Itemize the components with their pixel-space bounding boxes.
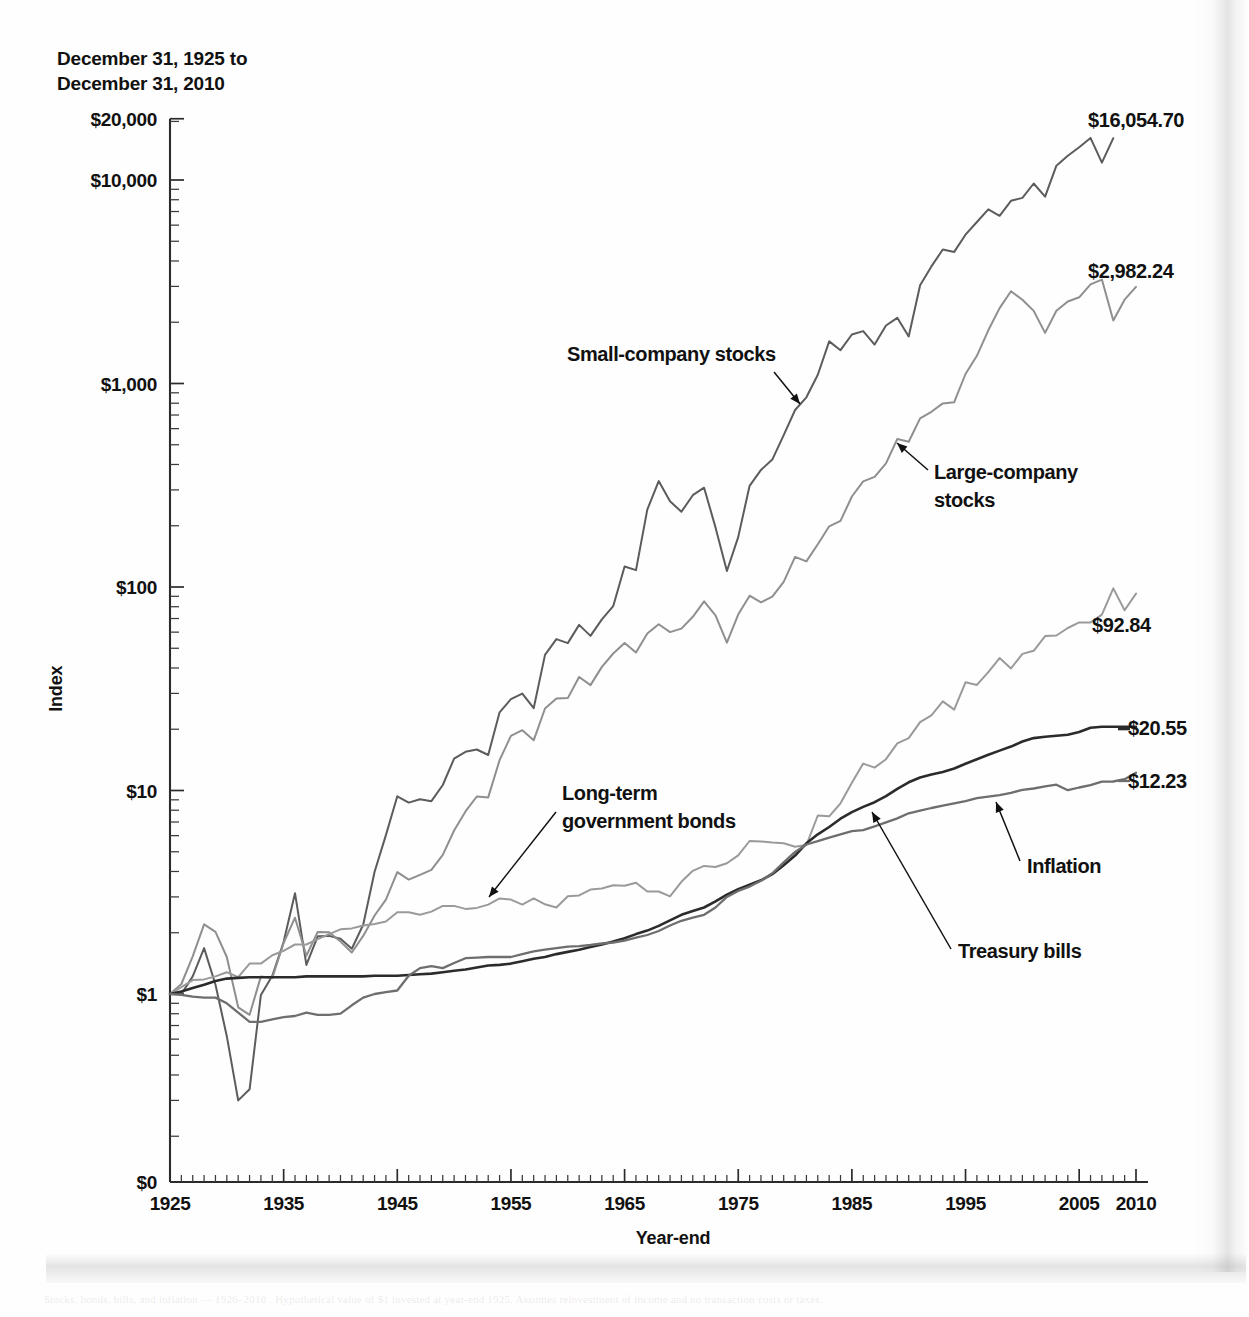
series-annotation-small-cap: Small-company stocks [567,343,776,365]
y-axis-tick-label: $1 [136,984,157,1005]
x-axis-tick-label: 1955 [491,1193,533,1214]
end-value-label-inflation: $12.23 [1128,770,1187,792]
leader-inflation-head [996,802,1004,813]
x-axis-tick-label: 1945 [377,1193,419,1214]
y-axis-tick-label: $20,000 [90,109,157,130]
y-axis-tick-label: $100 [116,577,157,598]
x-axis-tick-label: 2005 [1059,1193,1101,1214]
x-axis-title: Year-end [636,1228,710,1248]
y-axis-tick-label: $1,000 [101,374,157,395]
axes-layer [170,119,1148,1182]
series-annotation-tbills: Treasury bills [958,940,1082,962]
end-value-label-lt_gov_bonds: $92.84 [1092,614,1152,636]
x-axis-tick-label: 1975 [718,1193,760,1214]
end-value-label-large_cap: $2,982.24 [1088,260,1175,282]
series-annotation-lt-gov-bonds: Long-termgovernment bonds [562,782,736,832]
leader-lt-gov-bonds [489,812,556,897]
x-axis-tick-label: 1925 [150,1193,192,1214]
x-axis-tick-label: 1935 [263,1193,305,1214]
x-axis-tick-label: 1965 [604,1193,646,1214]
axis-labels-layer: $20,000$10,000$1,000$100$10$1$0Index1925… [46,109,1156,1248]
y-axis-tick-label: $0 [136,1172,157,1193]
end-value-label-small_cap: $16,054.70 [1088,109,1184,131]
leader-lt-gov-bonds-head [489,886,499,897]
scanned-page: December 31, 1925 to December 31, 2010 $… [0,0,1249,1317]
series-line-large_cap [170,280,1136,1015]
x-axis-tick-label: 1985 [832,1193,874,1214]
x-axis-tick-label: 1995 [945,1193,987,1214]
y-axis-tick-label: $10,000 [90,170,157,191]
y-axis-title: Index [46,666,66,712]
leader-tbills [872,812,951,949]
x-axis-tick-label: 2010 [1116,1193,1157,1214]
series-annotation-inflation: Inflation [1027,855,1101,877]
page-footnote-ghost: Stocks, bonds, bills, and inflation — 19… [44,1293,1234,1309]
series-annotation-large-cap: Large-companystocks [934,461,1079,511]
leader-tbills-head [872,812,881,823]
y-axis-tick-label: $10 [126,781,157,802]
end-value-label-tbills: $20.55 [1128,717,1187,739]
chart-date-range-title: December 31, 1925 to December 31, 2010 [57,46,247,97]
sbbi-growth-chart: $16,054.70$2,982.24$92.84$20.55$12.23Sma… [0,0,1249,1270]
